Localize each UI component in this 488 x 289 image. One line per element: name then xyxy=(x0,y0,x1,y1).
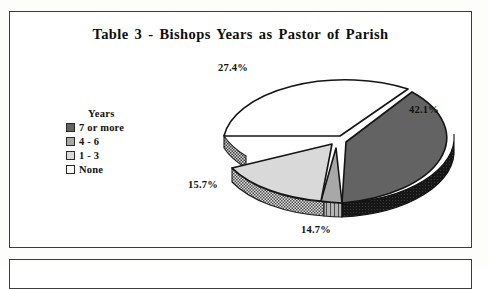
pie-label-1-3: 15.7% xyxy=(188,179,218,190)
legend-item-1-3: 1 - 3 xyxy=(66,149,196,162)
pie-chart xyxy=(206,56,462,246)
legend-swatch-7-or-more xyxy=(66,123,75,132)
second-frame xyxy=(9,259,472,289)
legend-item-7-or-more: 7 or more xyxy=(66,121,196,134)
pie-chart-svg xyxy=(206,56,462,246)
chart-title: Table 3 - Bishops Years as Pastor of Par… xyxy=(10,26,471,43)
legend-label-1-3: 1 - 3 xyxy=(79,150,99,161)
pie-side-4-6 xyxy=(324,202,342,217)
legend-swatch-1-3 xyxy=(66,151,75,160)
legend-label-none: None xyxy=(79,164,103,175)
legend-item-4-6: 4 - 6 xyxy=(66,135,196,148)
chart-legend: Years 7 or more 4 - 6 1 - 3 None xyxy=(66,108,196,177)
chart-frame: Table 3 - Bishops Years as Pastor of Par… xyxy=(9,11,472,248)
legend-label-7-or-more: 7 or more xyxy=(79,122,124,133)
legend-title: Years xyxy=(88,108,196,119)
legend-swatch-none xyxy=(66,165,75,174)
pie-side-none xyxy=(224,136,246,168)
legend-item-none: None xyxy=(66,163,196,176)
pie-label-4-6: 14.7% xyxy=(301,224,331,235)
pie-label-none: 27.4% xyxy=(218,62,248,73)
pie-label-7-or-more: 42.1% xyxy=(409,104,439,115)
legend-label-4-6: 4 - 6 xyxy=(79,136,99,147)
legend-swatch-4-6 xyxy=(66,137,75,146)
